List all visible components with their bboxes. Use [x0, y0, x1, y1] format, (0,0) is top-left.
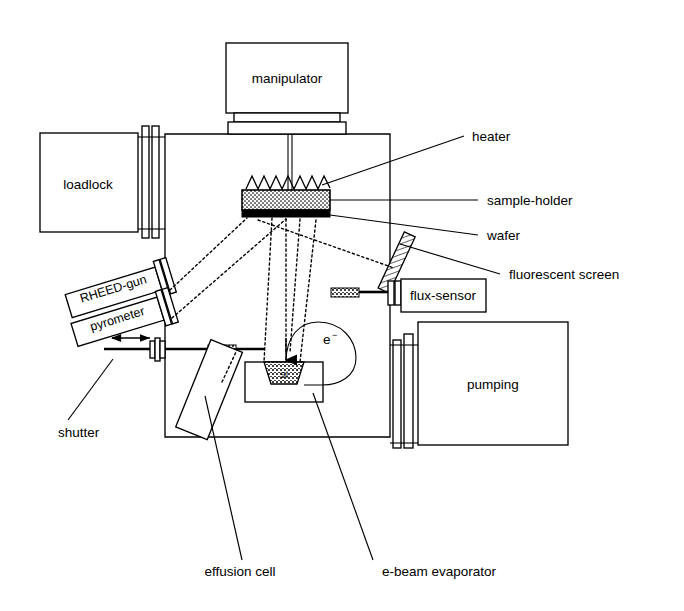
flux-cone-left	[264, 218, 272, 362]
leader-heater	[322, 136, 464, 185]
flux-cone-outer-right	[300, 220, 316, 362]
rheed-diffracted-beam	[258, 220, 394, 268]
loadlock-flange-b	[152, 126, 159, 238]
flux-sensor-flange-a	[388, 281, 394, 305]
leader-shutter	[68, 359, 113, 420]
crucible-material-label: Si	[280, 370, 288, 380]
effusion-cell-body[interactable]	[176, 340, 243, 440]
leader-fluorescent-screen	[400, 244, 500, 274]
manipulator-flange-upper	[234, 113, 340, 122]
diagram-canvas: Si e −	[0, 0, 684, 611]
leader-effusion-cell	[205, 396, 242, 560]
pumping-flange-a	[393, 340, 401, 448]
electron-symbol-label: e	[323, 332, 331, 347]
shutter-bellows-c	[160, 341, 165, 358]
rheed-incident-beam	[170, 218, 247, 290]
wafer	[242, 210, 330, 217]
wafer-label: wafer	[486, 228, 521, 243]
manipulator-flange-lower	[228, 122, 346, 134]
sample-holder-body[interactable]	[242, 190, 330, 210]
ebeam-evaporator-assembly[interactable]: Si e −	[245, 322, 356, 402]
pumping-flange-b	[404, 334, 413, 448]
loadlock-label: loadlock	[63, 177, 113, 192]
ebeam-evaporator-label: e-beam evaporator	[382, 564, 497, 579]
sample-holder-label: sample-holder	[487, 193, 573, 208]
flux-sensor-label: flux-sensor	[410, 288, 477, 303]
shutter-bellows-a	[150, 341, 155, 358]
leader-ebeam-evaporator	[313, 393, 373, 560]
shutter-bellows-b	[155, 338, 160, 361]
loadlock-flange-a	[142, 126, 149, 238]
flux-sensor-flange-b	[395, 281, 401, 305]
shutter-label: shutter	[58, 425, 100, 440]
fluorescent-screen-label: fluorescent screen	[509, 267, 619, 282]
manipulator-assembly[interactable]	[226, 43, 348, 192]
flux-sensor-head	[331, 288, 359, 297]
effusion-cell-assembly[interactable]	[176, 340, 243, 440]
electron-charge-label: −	[332, 330, 337, 340]
sample-holder-assembly[interactable]	[242, 190, 330, 217]
manipulator-label: manipulator	[252, 71, 323, 86]
effusion-cell-label: effusion cell	[204, 564, 275, 579]
mbe-system-schematic: Si e −	[0, 0, 684, 611]
pumping-label: pumping	[467, 377, 519, 392]
heater-label: heater	[472, 129, 511, 144]
